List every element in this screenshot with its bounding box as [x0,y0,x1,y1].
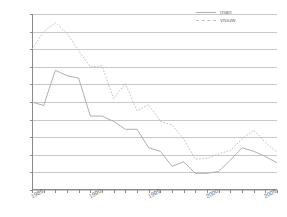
x-tick-mark [184,190,185,193]
x-tick-mark [125,190,126,193]
y-tick-mark [30,172,33,173]
y-tick-mark [30,67,33,68]
x-tick-mark [230,190,231,193]
legend: man vrouw [196,8,258,24]
y-tick-mark [30,14,33,15]
legend-label-vrouw: vrouw [220,17,236,23]
x-tick-mark [254,190,255,193]
legend-swatch-dotted-icon [196,20,216,21]
x-tick-mark [172,190,173,193]
x-tick-mark [79,190,80,193]
legend-label-man: man [220,9,231,15]
line-chart: 00,20,40,60,811,21,41,61,82 198519901995… [0,0,287,217]
y-tick-mark [30,120,33,121]
legend-item-man: man [196,8,258,16]
y-tick-mark [30,155,33,156]
x-tick-mark [242,190,243,193]
x-tick-mark [67,190,68,193]
x-tick-mark [195,190,196,193]
legend-item-vrouw: vrouw [196,16,258,24]
y-tick-mark [30,137,33,138]
x-tick-mark [114,190,115,193]
y-tick-mark [30,84,33,85]
y-tick-mark [30,32,33,33]
x-tick-mark [137,190,138,193]
x-tick-mark [55,190,56,193]
legend-swatch-solid-icon [196,12,216,13]
y-axis-labels: 00,20,40,60,811,21,41,61,82 [32,14,277,190]
y-tick-mark [30,49,33,50]
x-axis-labels: 19851990199520002005 [32,190,277,217]
y-tick-mark [30,102,33,103]
